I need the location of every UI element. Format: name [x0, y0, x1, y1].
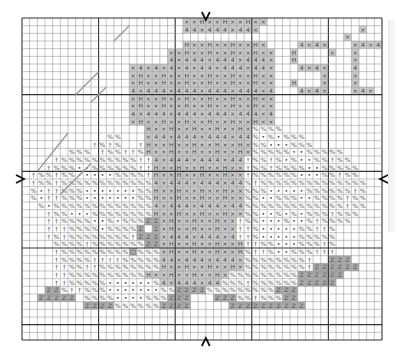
stitch-symbol-four: 4	[162, 133, 166, 140]
stitch-symbol-four: 4	[177, 110, 181, 117]
stitch-symbol-four: 4	[246, 56, 250, 63]
stitch-symbol-four: 4	[231, 56, 235, 63]
stitch-symbol-percent: %	[268, 125, 274, 132]
stitch-symbol-percent: %	[61, 217, 67, 224]
stitch-symbol-percent: %	[306, 179, 312, 186]
stitch-symbol-dot: •	[277, 133, 281, 140]
stitch-symbol-percent: %	[329, 187, 335, 194]
stitch-symbol-h: H	[207, 102, 212, 109]
stitch-symbol-z: Z	[238, 302, 242, 309]
stitch-symbol-percent: %	[107, 294, 113, 301]
stitch-symbol-dagger: †	[78, 286, 81, 293]
stitch-symbol-cross: ×	[238, 164, 243, 171]
stitch-symbol-dagger: †	[239, 225, 242, 232]
stitch-symbol-four: 4	[315, 41, 319, 48]
stitch-symbol-percent: %	[283, 263, 289, 270]
stitch-symbol-cross: ×	[184, 148, 189, 155]
stitch-symbol-percent: %	[352, 179, 358, 186]
stitch-symbol-four: 4	[246, 133, 250, 140]
stitch-symbol-z: Z	[284, 286, 288, 293]
stitch-symbol-cross: ×	[184, 217, 189, 224]
stitch-symbol-z: Z	[315, 271, 319, 278]
stitch-symbol-cross: ×	[184, 194, 189, 201]
stitch-symbol-four: 4	[208, 110, 212, 117]
stitch-symbol-cross: ×	[230, 133, 235, 140]
stitch-symbol-percent: %	[322, 179, 328, 186]
stitch-symbol-four: 4	[238, 110, 242, 117]
stitch-symbol-cross: ×	[169, 194, 174, 201]
stitch-symbol-dot: •	[116, 294, 120, 301]
stitch-symbol-cross: ×	[238, 210, 243, 217]
stitch-symbol-cross: ×	[261, 110, 266, 117]
stitch-symbol-cross: ×	[207, 187, 212, 194]
stitch-symbol-z: Z	[330, 271, 334, 278]
stitch-symbol-h: H	[253, 41, 258, 48]
stitch-symbol-cross: ×	[222, 79, 227, 86]
stitch-symbol-dot: •	[147, 279, 151, 286]
stitch-symbol-cross: ×	[131, 118, 136, 125]
stitch-symbol-cross: ×	[192, 102, 197, 109]
stitch-symbol-dot: •	[124, 286, 128, 293]
stitch-symbol-four: 4	[300, 41, 304, 48]
stitch-symbol-cross: ×	[238, 102, 243, 109]
stitch-symbol-percent: %	[253, 187, 259, 194]
stitch-symbol-cross: ×	[238, 49, 243, 56]
stitch-symbol-cross: ×	[177, 217, 182, 224]
stitch-symbol-percent: %	[268, 171, 274, 178]
stitch-symbol-cross: ×	[215, 194, 220, 201]
stitch-symbol-cross: ×	[161, 202, 166, 209]
stitch-symbol-four: 4	[215, 202, 219, 209]
stitch-symbol-four: 4	[353, 64, 357, 71]
stitch-symbol-h: H	[200, 187, 205, 194]
side-scroll-panel[interactable]	[388, 20, 395, 232]
stitch-symbol-cross: ×	[261, 87, 266, 94]
stitch-symbol-z: Z	[154, 233, 158, 240]
stitch-symbol-percent: %	[69, 171, 75, 178]
stitch-symbol-cross: ×	[207, 248, 212, 255]
stitch-symbol-cross: ×	[169, 102, 174, 109]
stitch-symbol-dot: •	[269, 233, 273, 240]
stitch-symbol-cross: ×	[253, 26, 258, 33]
stitch-symbol-four: 4	[177, 233, 181, 240]
stitch-symbol-percent: %	[115, 302, 121, 309]
stitch-symbol-cross: ×	[177, 118, 182, 125]
stitch-symbol-cross: ×	[161, 240, 166, 247]
stitch-symbol-cross: ×	[261, 102, 266, 109]
stitch-symbol-four: 4	[208, 179, 212, 186]
stitch-symbol-dagger: †	[354, 187, 357, 194]
stitch-symbol-percent: %	[345, 179, 351, 186]
stitch-symbol-percent: %	[92, 202, 98, 209]
stitch-symbol-percent: %	[283, 217, 289, 224]
stitch-symbol-cross: ×	[192, 194, 197, 201]
stitch-symbol-cross: ×	[230, 240, 235, 247]
stitch-symbol-four: 4	[238, 64, 242, 71]
stitch-symbol-dagger: †	[55, 256, 58, 263]
stitch-symbol-percent: %	[115, 210, 121, 217]
stitch-symbol-h: H	[184, 263, 189, 270]
stitch-symbol-cross: ×	[222, 263, 227, 270]
stitch-symbol-cross: ×	[161, 156, 166, 163]
stitch-symbol-dot: •	[101, 225, 105, 232]
stitch-symbol-four: 4	[154, 87, 158, 94]
stitch-symbol-h: H	[184, 41, 189, 48]
stitch-symbol-cross: ×	[261, 49, 266, 56]
stitch-symbol-h: H	[138, 79, 143, 86]
stitch-symbol-four: 4	[215, 110, 219, 117]
stitch-symbol-z: Z	[322, 271, 326, 278]
stitch-symbol-percent: %	[46, 179, 52, 186]
stitch-symbol-percent: %	[260, 187, 266, 194]
stitch-symbol-h: H	[215, 248, 220, 255]
stitch-symbol-percent: %	[352, 202, 358, 209]
stitch-symbol-four: 4	[261, 56, 265, 63]
stitch-symbol-z: Z	[146, 233, 150, 240]
stitch-symbol-percent: %	[123, 202, 129, 209]
stitch-symbol-percent: %	[322, 156, 328, 163]
stitch-symbol-z: Z	[338, 256, 342, 263]
stitch-symbol-cross: ×	[192, 156, 197, 163]
stitch-symbol-percent: %	[107, 225, 113, 232]
stitch-symbol-percent: %	[253, 194, 259, 201]
stitch-symbol-percent: %	[123, 240, 129, 247]
stitch-symbol-percent: %	[107, 210, 113, 217]
stitch-symbol-dot: •	[78, 164, 82, 171]
stitch-symbol-cross: ×	[215, 164, 220, 171]
